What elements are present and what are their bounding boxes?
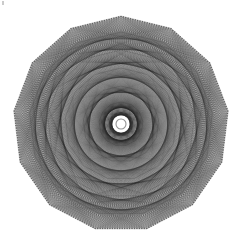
artboard [0, 0, 241, 240]
string-art-mandala [0, 0, 241, 240]
scan-speck [2, 1, 4, 5]
